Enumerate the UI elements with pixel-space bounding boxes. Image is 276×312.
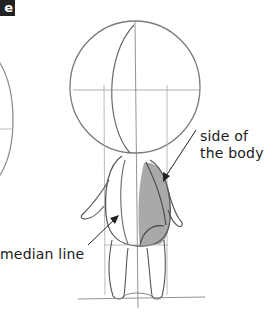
previous-head-circle bbox=[0, 60, 13, 178]
vertical-center-line bbox=[135, 22, 138, 308]
median-line-label: median line bbox=[0, 246, 84, 263]
ground-line bbox=[78, 297, 205, 299]
right-leg bbox=[147, 240, 165, 299]
chibi-body-diagram: e bbox=[0, 0, 276, 312]
left-leg bbox=[109, 240, 128, 299]
side-of-body-label: side of the body bbox=[200, 128, 276, 162]
left-guide-line bbox=[104, 85, 105, 295]
torso-inner-curve bbox=[121, 160, 128, 244]
median-arrow-line bbox=[88, 220, 114, 245]
head-side-curve bbox=[112, 25, 134, 153]
side-arrow-line bbox=[166, 130, 196, 176]
side-arrow-head bbox=[163, 172, 170, 182]
